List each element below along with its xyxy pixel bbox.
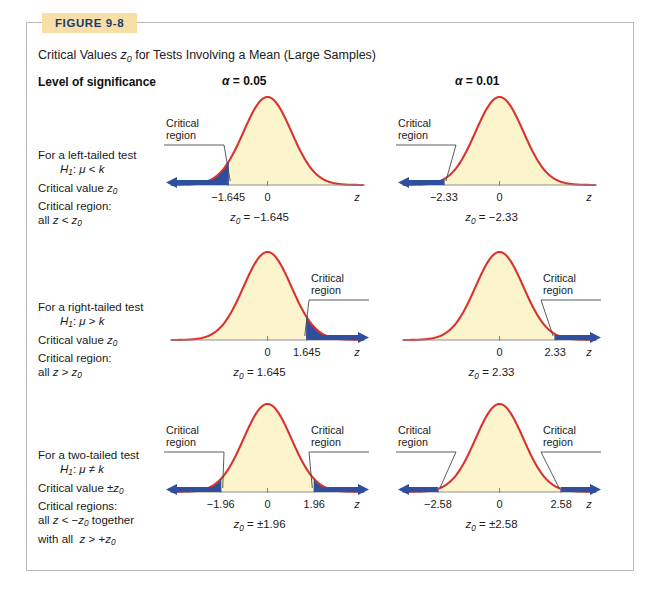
curve-fill [404, 404, 595, 492]
chart-panel-right-tailed-001: 02.33zz0 = 2.33Criticalregion [392, 240, 607, 388]
x-tick-label: 0 [264, 191, 270, 203]
critical-region-callout-line1: Critical [543, 272, 576, 284]
chart-panel-right-tailed-005: 01.645zz0 = 1.645Criticalregion [160, 240, 375, 388]
critical-region-arrowhead-0 [590, 332, 601, 343]
row-description-right-tailed: For a right-tailed test H1: μ > k Critic… [38, 300, 143, 384]
row-description-two-tailed: For a two-tailed test H1: μ ≠ k Critical… [38, 448, 139, 550]
x-tick-label: 0 [496, 498, 502, 510]
curve-fill [172, 404, 363, 492]
z0-caption: z0 = −2.33 [464, 211, 518, 226]
row-description-left-tailed: For a left-tailed test H1: μ < k Critica… [38, 148, 136, 232]
critical-region-callout-line1: Critical [166, 424, 199, 436]
critical-region-arrowhead-0 [398, 177, 409, 188]
axis-letter: z [585, 346, 592, 358]
x-tick-label: 0 [264, 498, 270, 510]
axis-letter: z [353, 191, 360, 203]
z0-caption: z0 = 1.645 [232, 366, 285, 381]
level-of-significance-label: Level of significance [38, 75, 156, 89]
axis-letter: z [353, 498, 360, 510]
z0-caption: z0 = ±1.96 [232, 518, 285, 533]
critical-region-arrowhead-0 [398, 484, 409, 495]
curve-fill [172, 97, 363, 185]
critical-region-callout-line2: region [166, 436, 196, 448]
critical-region-arrowhead-0 [358, 332, 369, 343]
critical-region-callout-line1: Critical [398, 424, 431, 436]
x-tick-label: 0 [496, 346, 502, 358]
critical-region-callout-line2: region [311, 436, 341, 448]
critical-region-callout-line2: region [398, 436, 428, 448]
x-tick-label: 1.645 [293, 346, 321, 358]
z0-caption: z0 = 2.33 [468, 366, 515, 381]
critical-region-callout-line2: region [311, 284, 341, 296]
x-tick-label: 2.33 [544, 346, 565, 358]
x-tick-label: 0 [264, 346, 270, 358]
curve-fill [172, 252, 363, 340]
critical-region-callout-line2: region [166, 129, 196, 141]
z0-caption: z0 = ±2.58 [464, 518, 517, 533]
critical-region-callout-line2: region [398, 129, 428, 141]
axis-letter: z [353, 346, 360, 358]
critical-region-arrowhead-1 [358, 484, 369, 495]
critical-region-callout-line1: Critical [311, 424, 344, 436]
x-tick-label: 0 [496, 191, 502, 203]
critical-region-callout-line2: region [543, 284, 573, 296]
x-tick-label: 2.58 [550, 498, 571, 510]
chart-panel-left-tailed-001: −2.330zz0 = −2.33Criticalregion [392, 85, 607, 233]
axis-letter: z [585, 498, 592, 510]
critical-region-callout-line1: Critical [311, 272, 344, 284]
critical-region-callout-line1: Critical [166, 117, 199, 129]
x-tick-label: 1.96 [304, 498, 325, 510]
critical-region-callout-line1: Critical [543, 424, 576, 436]
chart-panel-left-tailed-005: −1.6450zz0 = −1.645Criticalregion [160, 85, 375, 233]
chart-panel-two-tailed-001: −2.5802.58zz0 = ±2.58CriticalregionCriti… [392, 392, 607, 540]
critical-region-arrowhead-0 [166, 177, 177, 188]
critical-region-arrowhead-1 [590, 484, 601, 495]
x-tick-label: −1.96 [207, 498, 235, 510]
critical-region-callout-line1: Critical [398, 117, 431, 129]
x-tick-label: −2.33 [430, 191, 458, 203]
chart-panel-two-tailed-005: −1.9601.96zz0 = ±1.96CriticalregionCriti… [160, 392, 375, 540]
figure-number-tag: FIGURE 9-8 [42, 13, 137, 33]
z0-caption: z0 = −1.645 [229, 211, 289, 226]
critical-region-arrowhead-0 [166, 484, 177, 495]
curve-fill [404, 252, 595, 340]
x-tick-label: −2.58 [424, 498, 452, 510]
curve-fill [404, 97, 595, 185]
critical-region-callout-line2: region [543, 436, 573, 448]
x-tick-label: −1.645 [211, 191, 245, 203]
axis-letter: z [585, 191, 592, 203]
figure-title: Critical Values z0 for Tests Involving a… [38, 48, 376, 64]
